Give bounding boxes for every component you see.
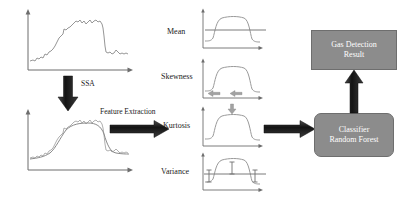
feature-label-skewness: Skewness [161,73,193,82]
feature-plot-skewness [196,58,268,106]
feature-extraction-label: Feature Extraction [100,108,156,116]
raw-signal-curve [30,20,128,61]
features-to-classifier-arrow [264,120,316,138]
feature-label-mean: Mean [167,28,185,37]
plot-axes [26,9,133,72]
result-box-line2: Result [331,50,377,60]
ssa-step-label: SSA [81,80,95,88]
diagram-canvas: SSA Feature Extraction [0,0,407,206]
feature-plot-mean [196,8,268,56]
classifier-to-result-arrow [344,70,364,114]
feature-label-kurtosis: Kurtosis [163,122,190,131]
classifier-box-line1: Classifier [329,125,378,135]
plot-axes [26,109,133,172]
feature-plot-kurtosis [196,104,268,154]
kurtosis-down-arrow [228,104,236,114]
gas-detection-result-box[interactable]: Gas Detection Result [311,30,397,70]
feature-extraction-arrow [110,120,170,138]
skewness-left-arrow [208,91,220,97]
raw-signal-plot [18,8,138,80]
classifier-box-line2: Random Forest [329,135,378,145]
feature-curve-kurtosis [205,115,260,141]
classifier-box[interactable]: Classifier Random Forest [314,113,394,157]
result-box-line1: Gas Detection [331,40,377,50]
plot-axes [201,9,263,51]
feature-curve-mean [205,17,260,43]
feature-label-variance: Variance [161,168,189,177]
feature-curve-skewness [205,67,260,93]
feature-plot-variance [196,152,268,200]
ssa-arrow [57,76,79,112]
skewness-right-arrow [230,91,242,97]
